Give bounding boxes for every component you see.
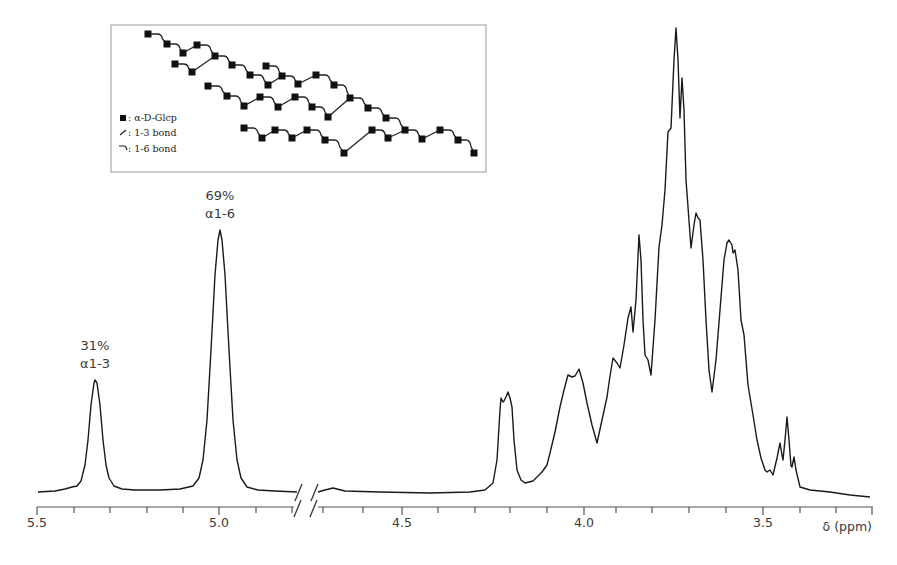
peak-annotation-a16: 69% α1-6 [205,188,235,221]
glucose-residue-icon [257,94,264,101]
tick-label-5.0: 5.0 [209,515,229,530]
glucose-residue-icon [455,137,462,144]
glucose-residue-icon [180,50,187,57]
glucose-residue-icon [437,127,444,134]
peak-annotation-a13: 31% α1-3 [80,338,110,371]
glucose-residue-icon [224,93,231,100]
legend-glcp-label: : α-D-Glcp [128,112,177,123]
tick-label-4.0: 4.0 [574,515,594,530]
glucose-residue-icon [347,95,354,102]
spectrum-trace-left [38,230,297,492]
tick-label-3.5: 3.5 [753,515,773,530]
legend-13-label: : 1-3 bond [128,127,177,138]
glucose-residue-icon [241,103,248,110]
axis-break-marks [294,484,318,517]
glucose-residue-icon [205,83,212,90]
glucose-residue-icon [365,105,372,112]
glucose-residue-icon [325,114,332,121]
glucose-residue-icon [265,82,272,89]
glucose-residue-icon [331,82,338,89]
glucose-residue-icon [292,94,299,101]
glucan-structure-inset: : α-D-Glcp : 1-3 bond : 1-6 bond [111,25,486,172]
glucose-residue-icon [402,127,409,134]
glucose-residue-icon [247,72,254,79]
glucose-residue-icon [341,150,348,157]
inset-legend: : α-D-Glcp : 1-3 bond : 1-6 bond [119,112,177,154]
annotation-a16-percent: 69% [206,188,235,203]
glucose-residue-icon [275,104,282,111]
glucose-residue-icon [309,104,316,111]
glucose-residue-icon [471,150,478,157]
annotation-a13-percent: 31% [81,338,110,353]
glucose-residue-icon [369,127,376,134]
tick-label-4.5: 4.5 [392,515,412,530]
x-axis [37,484,873,517]
glucose-residue-icon [241,125,248,132]
glucose-residue-icon [212,53,219,60]
annotation-a16-linkage: α1-6 [205,206,235,221]
glucose-residue-icon [259,135,266,142]
glucose-residue-icon [295,81,302,88]
glucose-residue-icon [145,31,152,38]
glucose-residue-icon [313,72,320,79]
nmr-spectrum-chart: : α-D-Glcp : 1-3 bond : 1-6 bond 31% α1-… [0,0,897,565]
glucose-residue-icon [419,136,426,143]
glucose-residue-icon [272,127,279,134]
glucose-residue-icon [383,115,390,122]
glucose-residue-icon [229,62,236,69]
glucose-residue-icon [189,69,196,76]
glucose-residue-icon [322,137,329,144]
tick-label-5.5: 5.5 [27,515,47,530]
glucose-square-icon [120,115,126,121]
x-axis-title: δ (ppm) [823,519,872,534]
glucose-residue-icon [304,127,311,134]
glucose-residue-icon [164,41,171,48]
legend-16-label: : 1-6 bond [128,143,177,154]
glucose-residue-icon [289,135,296,142]
x-axis-labels: 5.5 5.0 4.5 4.0 3.5 δ (ppm) [27,515,872,534]
annotation-a13-linkage: α1-3 [80,356,110,371]
glucose-residue-icon [194,42,201,49]
glucose-residue-icon [263,63,270,70]
x-axis-ticks [37,507,872,515]
glucose-residue-icon [385,135,392,142]
glucose-residue-icon [172,61,179,68]
glucose-residue-icon [279,73,286,80]
